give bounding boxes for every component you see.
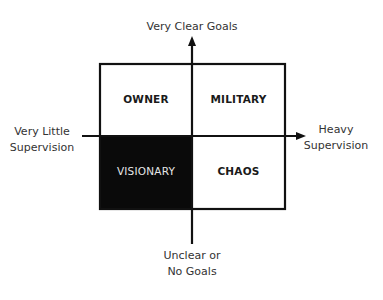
axis-label-right-line2: Supervision — [300, 138, 372, 154]
axis-label-bottom-line2: No Goals — [152, 264, 232, 280]
axis-label-right-line1: Heavy — [300, 122, 372, 138]
quadrant-military: MILITARY — [192, 93, 285, 105]
axis-label-bottom-line1: Unclear or — [152, 248, 232, 264]
axis-label-right: Heavy Supervision — [300, 122, 372, 154]
axis-label-bottom: Unclear or No Goals — [152, 248, 232, 280]
quadrant-owner: OWNER — [100, 93, 192, 105]
axis-label-top: Very Clear Goals — [142, 19, 242, 35]
axis-label-left: Very Little Supervision — [6, 124, 78, 156]
up-arrow-icon — [188, 36, 196, 46]
quadrant-visionary: VISIONARY — [100, 165, 192, 177]
axis-label-left-line1: Very Little — [6, 124, 78, 140]
axis-label-left-line2: Supervision — [6, 140, 78, 156]
quadrant-chaos: CHAOS — [192, 165, 285, 177]
